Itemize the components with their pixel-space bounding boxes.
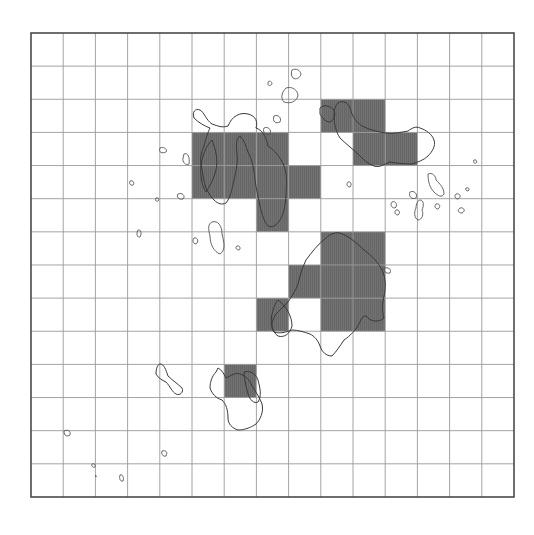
- occupied-cell: [192, 132, 224, 165]
- occupied-cell: [192, 166, 224, 199]
- occupied-cell: [353, 232, 385, 265]
- occupied-cell: [353, 265, 385, 298]
- occupied-cell: [224, 364, 256, 397]
- islet-sw-3: [95, 476, 96, 477]
- occupied-cell: [289, 166, 321, 199]
- occupied-cell: [385, 132, 417, 165]
- occupied-cell: [321, 298, 353, 331]
- background: [0, 0, 534, 535]
- occupied-cell: [321, 265, 353, 298]
- grid-map-figure: [0, 0, 534, 535]
- occupied-cell: [256, 166, 288, 199]
- occupied-cell: [256, 298, 288, 331]
- occupied-cell: [353, 132, 385, 165]
- occupied-cell: [224, 166, 256, 199]
- occupied-cell: [353, 99, 385, 132]
